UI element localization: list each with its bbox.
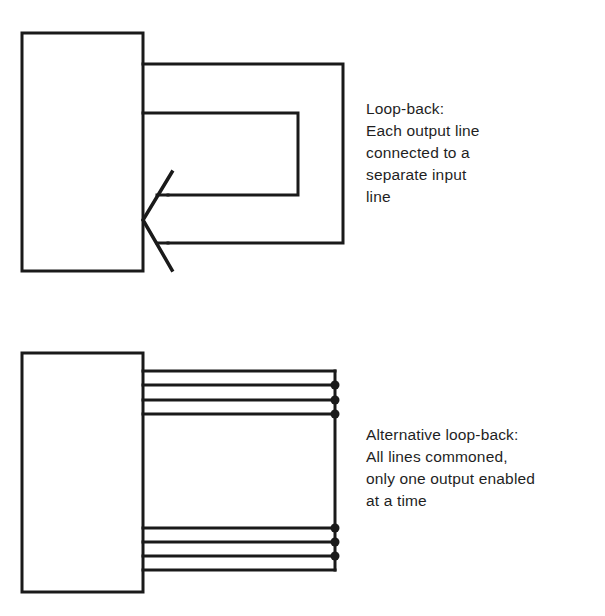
figure-container: Loop-back: Each output line connected to… — [0, 0, 605, 616]
diagram-canvas — [0, 0, 605, 616]
top-panel-group — [22, 33, 343, 271]
loop-back-arrowhead-icon — [143, 172, 172, 270]
bottom-device-box — [22, 353, 143, 592]
bottom-panel-group — [22, 353, 340, 592]
junction-dot — [331, 524, 340, 533]
loop-back-caption: Loop-back: Each output line connected to… — [366, 98, 480, 208]
junction-dot — [331, 381, 340, 390]
outer-loop-path — [143, 64, 343, 243]
alternative-loop-back-caption: Alternative loop-back: All lines commone… — [366, 424, 535, 512]
junction-dot — [331, 396, 340, 405]
junction-dot — [331, 410, 340, 419]
junction-dot — [331, 552, 340, 561]
junction-dot — [331, 538, 340, 547]
top-device-box — [22, 33, 143, 271]
